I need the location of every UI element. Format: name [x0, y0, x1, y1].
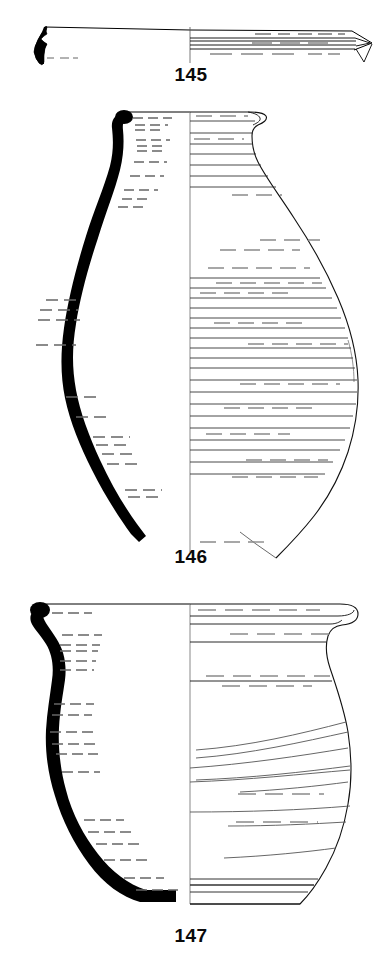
figure-147	[0, 582, 382, 962]
illustration-plate: 145	[0, 0, 382, 962]
figure-caption-146: 146	[0, 546, 382, 568]
figure-caption-147: 147	[0, 925, 382, 947]
figure-146	[0, 92, 382, 582]
figure-146-drawing	[0, 92, 382, 582]
figure-caption-145: 145	[0, 64, 382, 86]
figure-147-drawing	[0, 582, 382, 962]
